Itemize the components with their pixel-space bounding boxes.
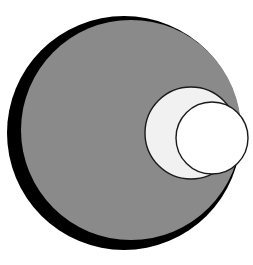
nested-circles-figure [0, 0, 253, 265]
white-circle [176, 102, 248, 174]
circles-svg [0, 0, 253, 265]
